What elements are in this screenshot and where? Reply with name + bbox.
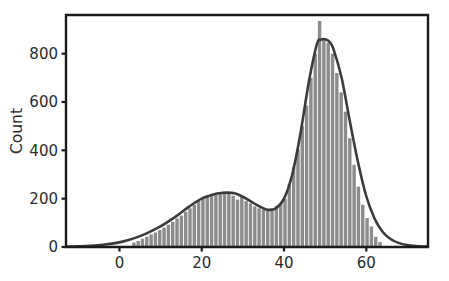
x-axis-tick-label: 40 bbox=[274, 254, 293, 272]
histogram-bar bbox=[365, 218, 368, 247]
y-axis-tick-label: 600 bbox=[29, 93, 58, 111]
y-axis-tick-label: 400 bbox=[29, 142, 58, 160]
histogram-bar bbox=[327, 43, 330, 247]
histogram-bar bbox=[244, 201, 247, 247]
histogram-bar bbox=[266, 211, 269, 247]
histogram-bar bbox=[201, 199, 204, 247]
histogram-bar bbox=[236, 200, 239, 247]
histogram-bar bbox=[279, 203, 282, 247]
histogram-bar bbox=[197, 201, 200, 247]
histogram-bar bbox=[227, 192, 230, 247]
histogram-bar bbox=[318, 21, 321, 247]
histogram-bar bbox=[231, 196, 234, 247]
histogram-bar bbox=[361, 205, 364, 247]
histogram-bar bbox=[214, 195, 217, 247]
histogram-figure: 0200400600800 0204060 Count bbox=[0, 0, 449, 281]
histogram-bar bbox=[223, 193, 226, 247]
y-axis-tick-label: 0 bbox=[48, 238, 58, 256]
histogram-bar bbox=[370, 226, 373, 247]
histogram-bar bbox=[288, 184, 291, 247]
histogram-bar bbox=[180, 216, 183, 247]
histogram-bar bbox=[193, 205, 196, 247]
histogram-bar bbox=[206, 196, 209, 247]
histogram-bar bbox=[357, 187, 360, 247]
histogram-bar bbox=[296, 149, 299, 247]
y-axis-tick-label: 200 bbox=[29, 190, 58, 208]
histogram-bar bbox=[352, 165, 355, 247]
histogram-bar bbox=[262, 210, 265, 247]
histogram-bar bbox=[145, 237, 148, 247]
histogram-bar bbox=[141, 239, 144, 247]
histogram-bar bbox=[292, 167, 295, 247]
histogram-bar bbox=[374, 237, 377, 247]
histogram-bar bbox=[314, 54, 317, 247]
histogram-bar bbox=[162, 228, 165, 247]
histogram-bar bbox=[257, 208, 260, 247]
histogram-bar bbox=[171, 222, 174, 247]
histogram-bar bbox=[149, 234, 152, 247]
histogram-bar bbox=[253, 206, 256, 247]
histogram-bar bbox=[154, 233, 157, 248]
x-axis-tick-label: 0 bbox=[115, 254, 125, 272]
histogram-bar bbox=[335, 73, 338, 247]
histogram-bar bbox=[275, 206, 278, 247]
histogram-bar bbox=[305, 106, 308, 247]
histogram-bar bbox=[158, 230, 161, 247]
histogram-bar bbox=[240, 196, 243, 247]
histogram-bar bbox=[348, 138, 351, 247]
histogram-bar bbox=[249, 204, 252, 248]
y-axis-tick-label: 800 bbox=[29, 45, 58, 63]
x-axis-tick-label: 20 bbox=[192, 254, 211, 272]
histogram-bar bbox=[188, 208, 191, 247]
histogram-bar bbox=[270, 209, 273, 247]
histogram-bar bbox=[331, 54, 334, 247]
histogram-bar bbox=[339, 92, 342, 247]
histogram-bar bbox=[283, 199, 286, 247]
histogram-bar bbox=[344, 112, 347, 247]
histogram-bar bbox=[167, 225, 170, 247]
chart-canvas: 0200400600800 0204060 Count bbox=[0, 0, 449, 281]
histogram-bar bbox=[219, 193, 222, 247]
histogram-bar bbox=[322, 39, 325, 247]
x-axis-tick-label: 60 bbox=[357, 254, 376, 272]
histogram-bar bbox=[301, 126, 304, 247]
histogram-bar bbox=[309, 78, 312, 247]
histogram-bar bbox=[184, 212, 187, 247]
histogram-bar bbox=[175, 218, 178, 247]
y-axis-title: Count bbox=[8, 108, 26, 154]
histogram-bar bbox=[210, 194, 213, 247]
